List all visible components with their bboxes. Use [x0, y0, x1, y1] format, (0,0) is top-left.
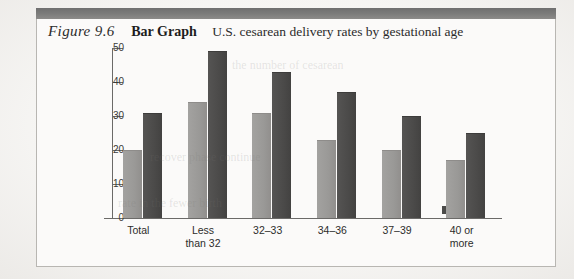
x-axis-label-line: Less	[171, 224, 236, 237]
figure-caption: Figure 9.6 Bar Graph U.S. cesarean deliv…	[48, 22, 548, 42]
figure-number: Figure 9.6	[48, 23, 115, 39]
x-axis-label-line: Total	[106, 224, 171, 237]
figure-kicker: Bar Graph	[131, 24, 196, 39]
bar-dark	[272, 72, 291, 218]
scan-artifact-speck	[442, 206, 446, 214]
bar-dark	[466, 133, 485, 218]
bar-dark	[402, 116, 421, 218]
bar-group	[382, 48, 421, 218]
bar-light	[382, 150, 401, 218]
bar-dark	[208, 51, 227, 218]
figure-header-band	[36, 8, 556, 19]
x-axis-label-line: 34–36	[300, 224, 365, 237]
bar-group	[123, 48, 162, 218]
plot-area	[112, 48, 500, 218]
bar-group	[252, 48, 291, 218]
x-axis-label-line: 40 or	[429, 224, 494, 237]
bar-light	[446, 160, 465, 218]
x-axis-label: 37–39	[365, 224, 430, 237]
bar-dark	[337, 92, 356, 218]
figure-page: Figure 9.6 Bar Graph U.S. cesarean deliv…	[0, 0, 574, 279]
bar-light	[188, 102, 207, 218]
bar-light	[123, 150, 142, 218]
bar-group	[446, 48, 485, 218]
bar-dark	[143, 113, 162, 218]
figure-caption-text: U.S. cesarean delivery rates by gestatio…	[212, 24, 463, 39]
x-axis-label-line: 32–33	[235, 224, 300, 237]
x-axis-label: 32–33	[235, 224, 300, 237]
x-axis-label: 34–36	[300, 224, 365, 237]
bar-light	[317, 140, 336, 218]
bar-light	[252, 113, 271, 218]
bar-group	[317, 48, 356, 218]
bar-group	[188, 48, 227, 218]
x-axis-label: 40 ormore	[429, 224, 494, 250]
bar-chart: 01020304050 TotalLessthan 3232–3334–3637…	[84, 44, 504, 224]
x-axis-label: Lessthan 32	[171, 224, 236, 250]
x-axis-label-line: 37–39	[365, 224, 430, 237]
x-axis-label-line: more	[429, 237, 494, 250]
x-axis-label: Total	[106, 224, 171, 237]
x-axis-line	[104, 218, 502, 219]
x-axis-label-line: than 32	[171, 237, 236, 250]
